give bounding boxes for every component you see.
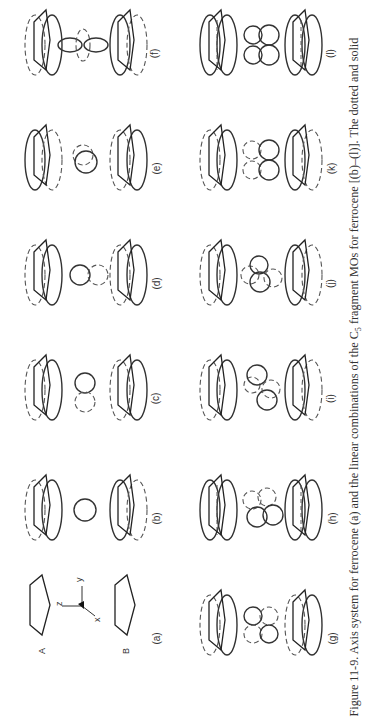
caption-suffix: fragment MOs for ferrocene [(b)–(l)]. Th… [347, 38, 361, 327]
panel-f [20, 0, 170, 100]
panel-b [20, 455, 170, 565]
p-orbital-lobe-positive [75, 373, 95, 393]
panel-a-axis-system: z y x A B [20, 570, 170, 680]
ferrocene-axis-diagram: z y x A B [20, 570, 170, 680]
panel-label-a: (a) [151, 632, 162, 644]
panel-l [195, 0, 345, 100]
panel-label-d: (d) [151, 277, 162, 289]
panel-label-j: (j) [325, 279, 336, 288]
figure-caption: Figure 11-9. Axis system for ferrocene (… [347, 0, 363, 717]
panel-c [20, 335, 170, 445]
ring-b-label: B [121, 648, 131, 654]
dz2-lobe-right [84, 38, 108, 52]
panel-k [195, 105, 345, 215]
panel-h [195, 455, 345, 565]
panel-label-h: (h) [327, 512, 338, 524]
ring-a-label: A [37, 648, 47, 654]
ring-top [25, 475, 62, 540]
panel-label-e: (e) [151, 162, 162, 174]
panel-label-b: (b) [151, 512, 162, 524]
panel-label-c: (c) [150, 393, 161, 405]
dz2-torus [76, 29, 90, 61]
panel-label-g: (g) [327, 632, 338, 644]
s-orbital [74, 499, 96, 521]
p-orbital-lobe-negative [75, 392, 95, 412]
ring-bottom [110, 475, 147, 540]
p-orbital-lobe-positive [70, 265, 90, 285]
origin-marker-icon [78, 601, 84, 609]
caption-subscript: 5 [354, 327, 363, 331]
x-axis-label: x [92, 617, 102, 622]
panel-label-l: (l) [325, 49, 336, 58]
caption-prefix: Figure 11-9. Axis system for ferrocene (… [347, 331, 361, 716]
z-axis-label: z [54, 601, 64, 606]
panel-label-k: (k) [326, 163, 337, 175]
panel-g [195, 570, 345, 680]
p-orbital-lobe-front [75, 151, 97, 173]
y-axis-label: y [74, 577, 84, 582]
panel-d [20, 220, 170, 330]
panel-i [195, 335, 345, 445]
panel-j [195, 220, 345, 330]
panel-label-f: (f) [149, 49, 160, 58]
cyclopentadienyl-ring-a [30, 575, 50, 635]
p-orbital-lobe-back [73, 145, 93, 165]
cyclopentadienyl-ring-b [115, 575, 135, 635]
panel-e [20, 105, 170, 215]
p-orbital-lobe-negative [88, 265, 108, 285]
panel-label-i: (i) [325, 394, 336, 403]
